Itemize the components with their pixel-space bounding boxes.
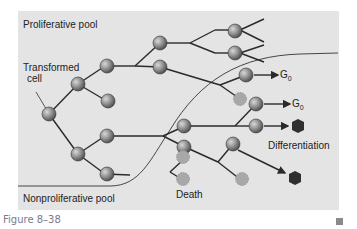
differentiation-label: Differentiation xyxy=(268,140,330,151)
dead-cell xyxy=(234,93,247,106)
dead-cell xyxy=(236,173,249,186)
transformed-cell-label-line2: cell xyxy=(27,73,42,84)
arrow-to-differentiated-b xyxy=(238,150,285,173)
cell xyxy=(100,167,114,181)
cell xyxy=(101,94,115,108)
fate-arrows xyxy=(238,75,290,173)
cell xyxy=(153,60,167,74)
g0-label-a: G0 xyxy=(280,69,292,84)
cell xyxy=(100,59,114,73)
cell xyxy=(71,147,85,161)
figure-caption: Figure 8–38 xyxy=(3,214,61,225)
transformed-cell xyxy=(42,107,56,121)
differentiated-cell-hexagon xyxy=(289,171,301,185)
g0-label-b: G0 xyxy=(292,98,304,113)
cell xyxy=(228,46,242,60)
dead-cell xyxy=(177,173,190,186)
transformed-cell-label-line1: Transformed xyxy=(23,62,79,73)
cell xyxy=(153,36,167,50)
cell xyxy=(249,119,263,133)
differentiated-cells xyxy=(289,119,304,185)
dead-cell xyxy=(177,151,190,164)
cell xyxy=(228,24,242,38)
proliferative-pool-label: Proliferative pool xyxy=(23,19,97,30)
cell xyxy=(226,137,240,151)
cell xyxy=(249,97,263,111)
cell xyxy=(177,119,191,133)
cell xyxy=(71,77,85,91)
cell xyxy=(100,129,114,143)
differentiated-cell-hexagon xyxy=(292,119,304,133)
nonproliferative-pool-label: Nonproliferative pool xyxy=(23,193,115,204)
death-label: Death xyxy=(176,189,203,200)
corner-square-marker xyxy=(336,218,343,225)
cell xyxy=(239,68,253,82)
